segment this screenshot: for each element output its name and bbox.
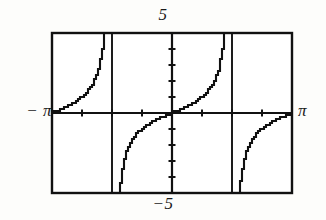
y-axis-min-label: −5: [0, 195, 326, 212]
y-axis-max-label: 5: [0, 6, 326, 23]
x-axis-max-label: π: [298, 102, 324, 119]
x-axis-min-label: − π: [10, 102, 52, 119]
plot-area: [50, 31, 294, 195]
graph-figure: 5 −5 − π π: [0, 0, 326, 220]
